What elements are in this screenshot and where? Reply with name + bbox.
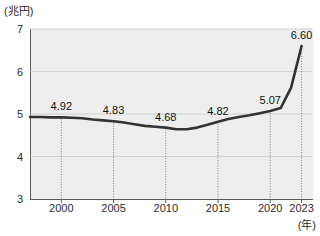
data-point-labels: 4.924.834.684.825.076.60 [0, 0, 320, 236]
line-chart: (兆円) 76543 200020052010201520202023 4.92… [0, 0, 320, 236]
data-value-label: 4.68 [155, 112, 176, 123]
data-value-label: 5.07 [260, 95, 281, 106]
data-value-label: 4.92 [51, 101, 72, 112]
data-value-label: 6.60 [291, 30, 312, 41]
x-axis-unit-label: (年) [298, 216, 316, 232]
data-value-label: 4.83 [103, 105, 124, 116]
data-value-label: 4.82 [207, 106, 228, 117]
